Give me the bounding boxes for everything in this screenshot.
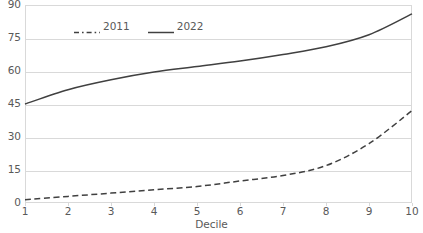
line-chart: 0153045607590 12345678910 Decile 2011 20… [0,0,423,233]
x-axis-tick-label: 2 [58,205,78,218]
legend-item-2022[interactable]: 2022 [148,21,204,32]
x-axis-tick-label: 7 [273,205,293,218]
y-axis-tick-label: 75 [0,32,21,43]
x-axis-tick-label: 10 [402,205,422,218]
legend-label-2011: 2011 [103,21,130,32]
x-axis-tick-label: 3 [101,205,121,218]
x-axis-tick-label: 5 [187,205,207,218]
y-axis-tick-label: 90 [0,0,21,10]
legend-swatch-solid-icon [148,22,174,31]
chart-legend: 2011 2022 [74,19,203,33]
x-axis-title: Decile [0,218,423,230]
x-axis-tick-label: 4 [144,205,164,218]
x-axis-tick-label: 9 [359,205,379,218]
y-axis-tick-label: 45 [0,98,21,109]
y-axis-tick-label: 60 [0,65,21,76]
legend-label-2022: 2022 [177,21,204,32]
y-axis-tick-label: 15 [0,164,21,175]
legend-swatch-dashed-icon [74,22,100,31]
y-axis-tick-label: 30 [0,131,21,142]
x-axis-tick-label: 1 [15,205,35,218]
x-axis: 12345678910 [0,205,423,219]
legend-item-2011[interactable]: 2011 [74,21,130,32]
series-line-2011 [25,111,412,200]
x-axis-tick-label: 8 [316,205,336,218]
y-axis: 0153045607590 [0,0,21,233]
x-axis-tick-label: 6 [230,205,250,218]
